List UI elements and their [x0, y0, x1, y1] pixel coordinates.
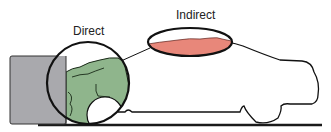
collision-damage-diagram: Direct Indirect	[0, 0, 331, 132]
vehicle-hood-line	[121, 48, 150, 61]
diagram-canvas	[0, 0, 331, 132]
indirect-label: Indirect	[176, 8, 215, 22]
direct-label: Direct	[73, 24, 104, 38]
